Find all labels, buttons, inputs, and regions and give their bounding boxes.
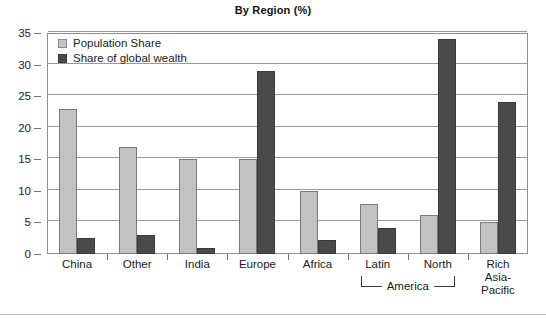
bracket-tick-right <box>454 276 455 287</box>
x-tick-label: Other <box>107 258 167 271</box>
y-tick-label: 10 <box>1 185 31 196</box>
x-tick-label-line: Other <box>107 258 167 271</box>
chart-legend: Population ShareShare of global wealth <box>58 36 228 66</box>
chart-title: By Region (%) <box>0 4 546 16</box>
bracket-line-right <box>434 286 455 287</box>
y-tick-label: 30 <box>1 59 31 70</box>
x-tick-label-line: Europe <box>227 258 287 271</box>
x-tick-label-line: India <box>167 258 227 271</box>
gridline <box>48 126 527 127</box>
america-group-label: America <box>380 280 436 292</box>
y-tick-mark <box>34 159 41 160</box>
x-tick-label: Europe <box>227 258 287 271</box>
x-tick-label: Africa <box>288 258 348 271</box>
light-gray-swatch <box>58 39 67 48</box>
y-tick-label: 25 <box>1 91 31 102</box>
y-tick-mark <box>34 128 41 129</box>
gridline <box>48 189 527 190</box>
y-axis: 05101520253035 <box>0 33 42 254</box>
x-tick-label-line: Rich <box>468 258 528 271</box>
y-tick-label: 0 <box>1 249 31 260</box>
legend-item: Population Share <box>58 36 228 50</box>
bar-chart: By Region (%) 05101520253035 ChinaOtherI… <box>0 0 546 318</box>
gridline <box>48 94 527 95</box>
y-tick-mark <box>34 191 41 192</box>
x-tick-label: Latin <box>348 258 408 271</box>
y-tick-mark <box>34 254 41 255</box>
legend-label: Share of global wealth <box>73 52 187 64</box>
x-tick-label-line: Latin <box>348 258 408 271</box>
legend-label: Population Share <box>73 37 161 49</box>
bracket-line-left <box>361 286 382 287</box>
x-tick-label-line: North <box>408 258 468 271</box>
x-tick-label-line: China <box>47 258 107 271</box>
gridline <box>48 157 527 158</box>
y-tick-label: 35 <box>1 28 31 39</box>
america-bracket-annotation: America <box>0 272 546 294</box>
x-tick-label: North <box>408 258 468 271</box>
x-tick-label: India <box>167 258 227 271</box>
y-tick-label: 15 <box>1 154 31 165</box>
x-tick-label: China <box>47 258 107 271</box>
y-tick-mark <box>34 222 41 223</box>
y-tick-mark <box>34 33 41 34</box>
y-tick-label: 5 <box>1 217 31 228</box>
gridline <box>48 31 527 32</box>
y-tick-label: 20 <box>1 122 31 133</box>
bottom-divider <box>0 314 546 315</box>
y-tick-mark <box>34 65 41 66</box>
y-tick-mark <box>34 96 41 97</box>
gridline <box>48 220 527 221</box>
plot-area <box>47 33 528 254</box>
legend-item: Share of global wealth <box>58 51 228 65</box>
x-tick-label-line: Africa <box>288 258 348 271</box>
dark-gray-swatch <box>58 54 67 63</box>
